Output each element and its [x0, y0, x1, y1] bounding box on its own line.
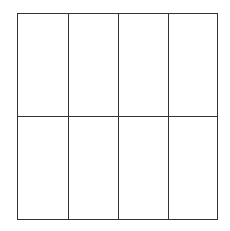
- grid-diagram: [17, 13, 218, 220]
- grid-row-divider: [18, 116, 217, 117]
